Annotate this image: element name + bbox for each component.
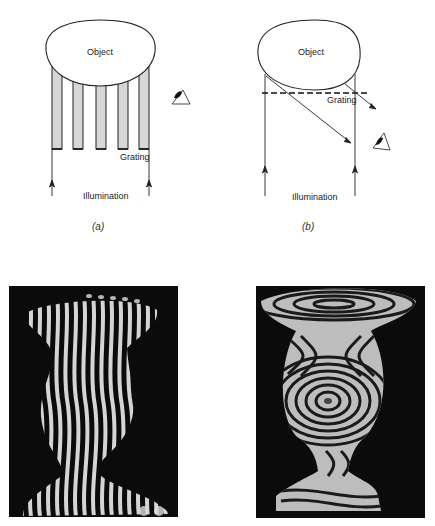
caption-a: (a) bbox=[92, 221, 104, 232]
caption-b: (b) bbox=[302, 221, 314, 232]
grating-label: Grating bbox=[120, 152, 150, 162]
diagram-panel-a: Object Grating Illumination (a) bbox=[0, 0, 220, 240]
grating-label: Grating bbox=[327, 95, 357, 105]
vase-photo-contour-fringes bbox=[256, 286, 425, 518]
eye-icon bbox=[172, 90, 190, 104]
eye-icon bbox=[373, 133, 390, 150]
vase-photo-straight-fringes bbox=[9, 286, 178, 517]
diagram-panel-b: Object Grating Illumination (b) bbox=[220, 0, 435, 240]
illumination-label: Illumination bbox=[83, 191, 129, 201]
object-label: Object bbox=[87, 47, 114, 57]
object-label: Object bbox=[298, 47, 325, 57]
illumination-label: Illumination bbox=[292, 192, 338, 202]
